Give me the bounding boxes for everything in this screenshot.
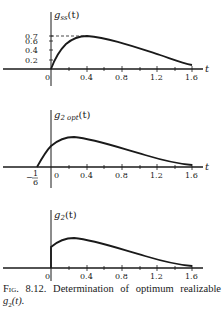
x-tick-label: 1.6 — [185, 272, 198, 281]
x-tick-label: 0.8 — [115, 272, 128, 281]
figure-canvas: gss(t) 0.7 0.6 0.4 0.2 0 0.4 0.8 1.2 1.6… — [0, 0, 224, 311]
x-tick-label: 1.2 — [150, 272, 163, 281]
x-tick-label: 0 — [54, 171, 59, 180]
caption-text: Determination of optimum realizable — [46, 283, 221, 294]
neg-tick-numerator: 1 — [33, 169, 38, 178]
x-tick-label: 1.2 — [150, 171, 163, 180]
figure-caption: Fig. 8.12. Determination of optimum real… — [3, 283, 221, 311]
x-tick-label: 0.4 — [80, 272, 93, 281]
g2-curve — [51, 238, 192, 268]
y-axis-label: g2 opt(t) — [54, 109, 91, 122]
chart-g2: g2(t) 0 0.4 0.8 1.2 1.6 — [3, 209, 203, 281]
x-tick-label: 1.6 — [185, 73, 198, 82]
caption-arg: (t). — [12, 295, 25, 306]
x-tick-label: 0 — [45, 272, 50, 281]
x-tick-label: 1.6 — [185, 171, 198, 180]
neg-tick-denominator: 6 — [33, 178, 38, 187]
gss-curve — [51, 36, 192, 69]
chart-gss: gss(t) 0.7 0.6 0.4 0.2 0 0.4 0.8 1.2 1.6… — [3, 9, 210, 86]
x-axis-label: t — [205, 63, 210, 74]
y-tick-label: 0.6 — [25, 37, 38, 46]
x-tick-label: 0.8 — [115, 171, 128, 180]
y-tick-label: 0.2 — [25, 56, 38, 65]
chart-g2opt: g2 opt(t) − 1 6 0 0.4 0.8 1.2 1.6 t — [3, 109, 210, 188]
x-axis-label: t — [205, 161, 210, 172]
g2opt-curve — [37, 137, 192, 167]
y-axis-label: g2(t) — [54, 209, 77, 222]
neg-sign: − — [26, 173, 33, 182]
y-tick-label: 0.4 — [25, 46, 38, 55]
x-tick-label: 0.8 — [115, 73, 128, 82]
x-tick-label: 0.4 — [80, 171, 93, 180]
figure-number: Fig. 8.12. — [3, 283, 46, 294]
x-tick-label: 0.4 — [80, 73, 93, 82]
x-tick-label: 1.2 — [150, 73, 163, 82]
y-axis-label: gss(t) — [54, 9, 80, 22]
x-tick-label: 0 — [45, 73, 50, 82]
